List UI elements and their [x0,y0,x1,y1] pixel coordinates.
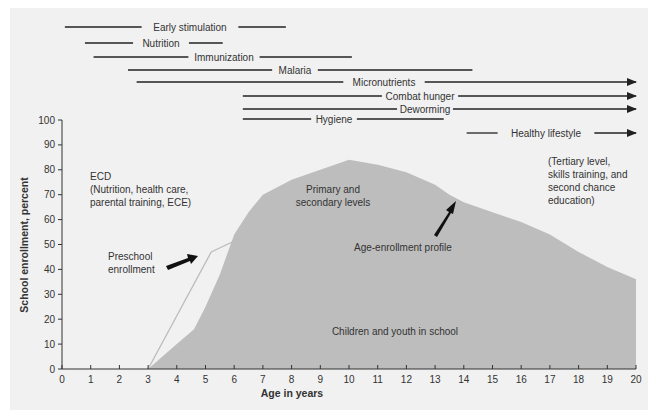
x-tick-label: 6 [231,374,237,385]
intervention-label: Nutrition [142,38,179,49]
svg-text:Preschool: Preschool [108,251,152,262]
y-tick-label: 70 [44,189,56,200]
x-tick-label: 18 [573,374,585,385]
enrollment-chart: 0102030405060708090100012345678910111213… [0,0,656,418]
y-tick-label: 90 [44,139,56,150]
svg-text:enrollment: enrollment [108,264,155,275]
intervention-healthy-lifestyle: Healthy lifestyle [467,128,636,139]
y-tick-label: 80 [44,164,56,175]
annotation-tertiary: (Tertiary level, skills training, and se… [548,156,627,206]
svg-text:second chance: second chance [548,182,616,193]
annotation-in-school: Children and youth in school [332,326,458,337]
svg-text:(Nutrition, health care,: (Nutrition, health care, [90,184,188,195]
x-tick-label: 19 [602,374,614,385]
intervention-label: Combat hunger [386,91,456,102]
y-tick-label: 30 [44,289,56,300]
y-axis-label: School enrollment, percent [18,177,30,313]
svg-text:ECD: ECD [90,171,111,182]
x-tick-label: 4 [174,374,180,385]
x-tick-label: 5 [203,374,209,385]
x-tick-label: 13 [430,374,442,385]
x-tick-label: 12 [401,374,413,385]
intervention-label: Malaria [279,65,312,76]
svg-text:education): education) [548,195,595,206]
annotation-ecd: ECD (Nutrition, health care, parental tr… [90,171,191,208]
intervention-label: Micronutrients [353,77,416,88]
y-tick-label: 20 [44,314,56,325]
y-tick-label: 40 [44,264,56,275]
x-tick-label: 1 [88,374,94,385]
intervention-malaria: Malaria [128,65,472,76]
x-tick-label: 11 [373,374,384,385]
y-tick-label: 0 [49,364,55,375]
x-tick-label: 7 [260,374,266,385]
y-tick-label: 10 [44,339,56,350]
intervention-micronutrients: Micronutrients [137,77,636,88]
x-tick-label: 20 [630,374,642,385]
x-tick-label: 17 [544,374,556,385]
intervention-early-stimulation: Early stimulation [65,22,286,33]
y-tick-label: 50 [44,239,56,250]
y-tick-label: 100 [38,115,55,126]
intervention-label: Healthy lifestyle [511,128,581,139]
svg-text:(Tertiary level,: (Tertiary level, [548,156,610,167]
intervention-label: Immunization [194,52,253,63]
x-axis-label: Age in years [261,387,324,399]
intervention-timelines: Early stimulationNutritionImmunizationMa… [65,22,636,139]
intervention-label: Deworming [400,104,451,115]
x-tick-label: 10 [343,374,355,385]
intervention-deworming: Deworming [243,104,636,115]
x-tick-label: 2 [117,374,123,385]
intervention-hygiene: Hygiene [243,114,444,125]
x-tick-label: 0 [59,374,65,385]
x-tick-label: 8 [289,374,295,385]
svg-text:skills training, and: skills training, and [548,169,627,180]
x-tick-label: 3 [145,374,151,385]
y-tick-label: 60 [44,214,56,225]
intervention-label: Early stimulation [153,22,226,33]
annotation-preschool: Preschool enrollment [108,251,198,275]
x-tick-label: 14 [458,374,470,385]
x-tick-label: 16 [516,374,528,385]
x-tick-label: 15 [487,374,499,385]
x-tick-label: 9 [318,374,324,385]
intervention-combat-hunger: Combat hunger [243,91,636,102]
intervention-immunization: Immunization [94,52,352,63]
svg-text:parental training, ECE): parental training, ECE) [90,197,191,208]
svg-text:Primary and: Primary and [306,184,360,195]
svg-text:secondary levels: secondary levels [296,197,370,208]
svg-text:Age-enrollment profile: Age-enrollment profile [354,242,452,253]
intervention-nutrition: Nutrition [85,38,223,49]
intervention-label: Hygiene [316,114,353,125]
preschool-arrow-icon [166,254,198,270]
